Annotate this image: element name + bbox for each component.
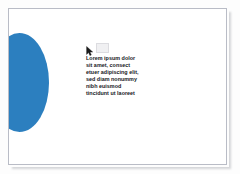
lorem-ipsum-text[interactable]: Lorem ipsum dolor sit amet, consect etue… — [86, 55, 152, 98]
text-content-group: Lorem ipsum dolor sit amet, consect etue… — [86, 42, 152, 98]
mouse-pointer-icon — [86, 42, 94, 52]
blue-ellipse-shape[interactable] — [8, 33, 49, 132]
slide-canvas: Lorem ipsum dolor sit amet, consect etue… — [0, 0, 240, 174]
slide-page[interactable]: Lorem ipsum dolor sit amet, consect etue… — [8, 8, 227, 165]
marker-row — [86, 42, 152, 54]
ghost-placeholder-icon — [96, 43, 109, 53]
